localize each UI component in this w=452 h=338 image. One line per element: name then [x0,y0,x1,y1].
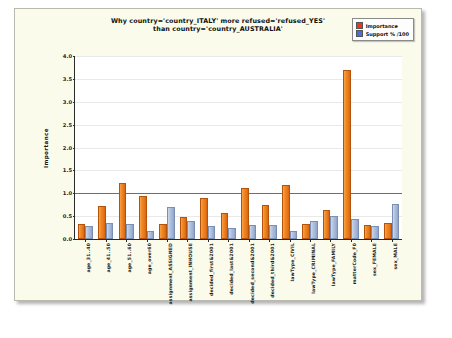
bar-support[interactable] [85,226,93,239]
bar-group [218,56,238,239]
x-tick-label: decided_first&2001 [209,243,214,296]
legend-label: Support % /100 [366,31,409,37]
y-tick-label: 4.0 [63,53,72,59]
bar-support[interactable] [187,221,195,239]
bar-importance[interactable] [200,198,208,239]
bar-support[interactable] [208,226,216,239]
bar-support[interactable] [310,221,318,239]
bar-group [95,56,115,239]
x-tick-mark [310,239,311,242]
x-tick-mark [249,239,250,242]
x-tick-mark [269,239,270,242]
x-tick-mark [85,239,86,242]
bar-group [116,56,136,239]
x-tick-mark [228,239,229,242]
bar-support[interactable] [290,231,298,239]
bar-support[interactable] [392,204,400,239]
x-tick-label: sex_FEMALE [372,243,377,276]
bar-importance[interactable] [98,206,106,239]
legend-item[interactable]: Support % /100 [356,30,409,37]
x-tick-label: assignment_ASSIGNED [168,243,173,304]
y-tick-label: 1.0 [63,190,72,196]
x-tick-mark [351,239,352,242]
bar-importance[interactable] [302,224,310,239]
y-tick-label: 0.5 [63,213,72,219]
x-tick-mark [126,239,127,242]
bar-importance[interactable] [241,188,249,239]
x-tick-label: lawType_FAMILY [331,243,336,286]
bar-group [157,56,177,239]
bar-group [320,56,340,239]
bar-group [177,56,197,239]
x-tick-label: matterCode_F0 [352,243,357,284]
x-tick-label: age_41..50 [106,243,111,273]
bar-importance[interactable] [159,224,167,239]
bar-group [239,56,259,239]
x-tick-mark [187,239,188,242]
bar-support[interactable] [147,231,155,239]
x-tick-mark [106,239,107,242]
x-tick-label: age_31..40 [86,243,91,273]
x-tick-label: assignment_INHOUSE [188,243,193,302]
bar-support[interactable] [249,225,257,239]
y-axis-label: Importance [41,56,51,239]
y-tick-mark [73,239,76,240]
bar-group [361,56,381,239]
bar-importance[interactable] [221,213,229,239]
x-tick-label: decided_last&2001 [229,243,234,295]
y-tick-label: 0.0 [63,236,72,242]
x-tick-label: age_over60 [147,243,152,274]
chart-legend: ImportanceSupport % /100 [352,18,414,41]
bar-group [279,56,299,239]
bar-support[interactable] [106,223,114,239]
x-tick-mark [392,239,393,242]
y-tick-label: 2.0 [63,145,72,151]
bar-importance[interactable] [384,223,392,239]
bar-group [136,56,156,239]
bar-importance[interactable] [139,196,147,239]
y-tick-label: 2.5 [63,122,72,128]
legend-swatch [356,30,363,37]
bar-support[interactable] [371,226,379,239]
x-tick-label: lawType_CIVIL [290,243,295,281]
x-tick-mark [330,239,331,242]
legend-swatch [356,22,363,29]
x-tick-mark [290,239,291,242]
chart-screenshot: Why country='country_ITALY' more refused… [0,0,452,338]
x-tick-label: sex_MALE [393,243,398,270]
bar-support[interactable] [167,207,175,239]
x-tick-label: decided_third&2001 [270,243,275,298]
bar-importance[interactable] [364,225,372,239]
y-tick-label: 3.0 [63,99,72,105]
bar-importance[interactable] [78,224,86,239]
bar-importance[interactable] [180,217,188,239]
bar-group [75,56,95,239]
bar-support[interactable] [228,228,236,239]
legend-item[interactable]: Importance [356,22,409,29]
bar-importance[interactable] [282,185,290,239]
bar-group [259,56,279,239]
x-tick-mark [147,239,148,242]
bar-support[interactable] [351,219,359,239]
x-tick-label: decided_second&2001 [250,243,255,304]
bar-importance[interactable] [323,210,331,239]
plot-area: 0.00.51.01.52.02.53.03.54.0 [74,56,402,240]
bar-importance[interactable] [119,183,127,239]
bar-support[interactable] [330,216,338,240]
legend-label: Importance [366,23,398,29]
bar-group [300,56,320,239]
x-tick-mark [371,239,372,242]
bar-importance[interactable] [262,205,270,239]
x-tick-label: age_51..60 [127,243,132,273]
bar-support[interactable] [269,225,277,239]
bar-group [198,56,218,239]
bar-group [341,56,361,239]
chart-panel: Why country='country_ITALY' more refused… [14,8,422,301]
bar-group [382,56,402,239]
x-tick-mark [208,239,209,242]
bar-support[interactable] [126,224,134,239]
y-tick-label: 3.5 [63,76,72,82]
x-tick-mark [167,239,168,242]
y-tick-label: 1.5 [63,167,72,173]
bar-importance[interactable] [343,70,351,239]
